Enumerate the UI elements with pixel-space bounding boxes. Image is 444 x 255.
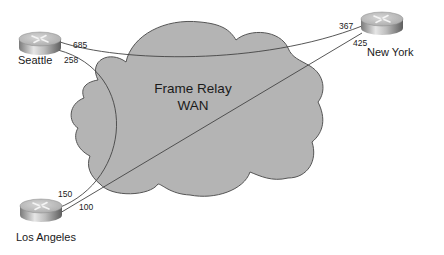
dlci-seattle-to-losangeles: 258 xyxy=(64,55,78,65)
dlci-newyork-to-seattle: 367 xyxy=(339,21,353,31)
cloud-label-line1: Frame Relay xyxy=(148,80,238,97)
dlci-seattle-to-newyork: 685 xyxy=(73,40,87,50)
router-label-seattle: Seattle xyxy=(18,54,52,66)
router-seattle-icon[interactable] xyxy=(19,32,61,55)
cloud-label-line2: WAN xyxy=(148,97,238,114)
dlci-losangeles-to-seattle: 150 xyxy=(58,189,72,199)
dlci-losangeles-to-newyork: 100 xyxy=(79,202,93,212)
router-new-york-icon[interactable] xyxy=(361,12,403,35)
dlci-newyork-to-losangeles: 425 xyxy=(353,38,367,48)
frame-relay-diagram xyxy=(0,0,444,255)
cloud-label: Frame Relay WAN xyxy=(148,80,238,114)
router-label-los-angeles: Los Angeles xyxy=(16,231,76,243)
router-label-new-york: New York xyxy=(367,46,413,58)
router-los-angeles-icon[interactable] xyxy=(20,199,62,222)
